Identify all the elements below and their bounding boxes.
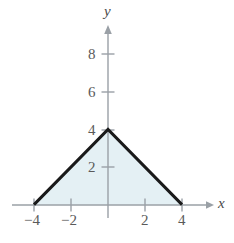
x-axis-arrowhead	[206, 201, 214, 209]
x-axis-label: x	[218, 196, 225, 211]
x-tick-label-2: 2	[141, 213, 149, 228]
x-tick-label--4: −4	[24, 213, 40, 228]
y-axis-label: y	[104, 4, 111, 19]
y-tick-label-8: 8	[88, 47, 96, 62]
x-tick-label--2: −2	[61, 213, 77, 228]
plot-area	[0, 0, 234, 243]
figure-canvas: y x −4 −2 2 4 2 4 6 8	[0, 0, 234, 243]
y-tick-label-6: 6	[88, 85, 96, 100]
y-tick-label-4: 4	[88, 123, 96, 138]
y-tick-label-2: 2	[88, 160, 96, 175]
y-axis-arrowhead	[104, 25, 112, 34]
x-tick-label-4: 4	[178, 213, 186, 228]
